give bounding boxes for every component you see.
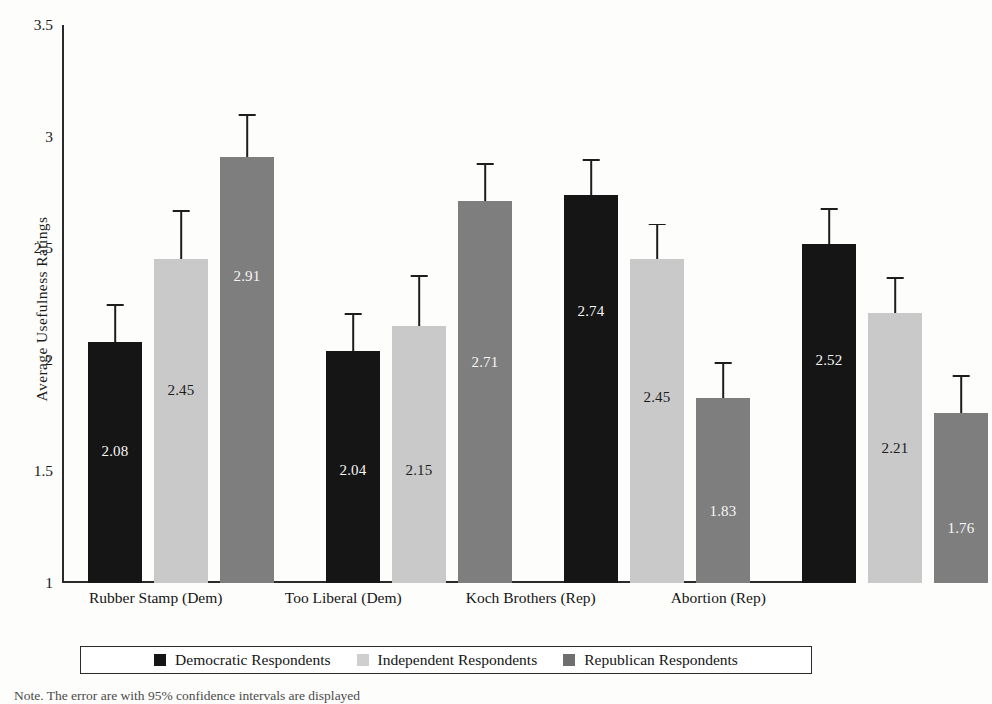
y-tick-1-5: 1.5 <box>34 462 53 480</box>
bar-value-label: 1.83 <box>696 503 750 520</box>
bar-column[interactable]: 2.45 <box>154 25 208 583</box>
y-axis-title: Average Usefulness Ratings <box>33 179 51 439</box>
x-axis-label: Koch Brothers (Rep) <box>437 589 625 607</box>
bar-group: 2.742.451.83 <box>538 25 776 583</box>
bar-value-label: 2.08 <box>88 443 142 460</box>
legend-label: Republican Respondents <box>584 651 738 669</box>
bar-value-label: 1.76 <box>934 520 988 537</box>
bar-column[interactable]: 2.71 <box>458 25 512 583</box>
figure-note: Note. The error are with 95% confidence … <box>14 688 714 704</box>
bar-group: 2.522.211.76 <box>776 25 992 583</box>
bar-group: 2.082.452.91 <box>62 25 300 583</box>
bar-column[interactable]: 1.76 <box>934 25 988 583</box>
bar[interactable]: 1.76 <box>934 413 988 583</box>
x-axis-label: Rubber Stamp (Dem) <box>62 589 250 607</box>
plot-area: 3.532.521.51 2.082.452.912.042.152.712.7… <box>62 25 812 583</box>
bar-column[interactable]: 2.52 <box>802 25 856 583</box>
bar-value-label: 2.04 <box>326 462 380 479</box>
bar[interactable]: 2.91 <box>220 157 274 583</box>
bar-value-label: 2.15 <box>392 462 446 479</box>
bar[interactable]: 2.15 <box>392 326 446 583</box>
y-tick-2-5: 2.5 <box>34 239 53 257</box>
bar-value-label: 2.45 <box>154 382 208 399</box>
bar-column[interactable]: 2.21 <box>868 25 922 583</box>
legend-label: Independent Respondents <box>378 651 538 669</box>
legend-label: Democratic Respondents <box>175 651 330 669</box>
bar[interactable]: 2.74 <box>564 195 618 583</box>
bar-column[interactable]: 2.91 <box>220 25 274 583</box>
x-axis-label: Abortion (Rep) <box>625 589 813 607</box>
bar-value-label: 2.45 <box>630 389 684 406</box>
y-tick-3-5: 3.5 <box>34 16 53 34</box>
bar-column[interactable]: 2.04 <box>326 25 380 583</box>
legend-swatch-icon <box>154 654 166 666</box>
bar[interactable]: 2.71 <box>458 201 512 583</box>
x-axis-label: Too Liberal (Dem) <box>250 589 438 607</box>
bar[interactable]: 2.45 <box>154 259 208 583</box>
bar-value-label: 2.91 <box>220 268 274 285</box>
bar[interactable]: 1.83 <box>696 398 750 583</box>
bar-group: 2.042.152.71 <box>300 25 538 583</box>
chart-legend: Democratic RespondentsIndependent Respon… <box>80 646 812 674</box>
x-axis-labels: Rubber Stamp (Dem)Too Liberal (Dem)Koch … <box>62 589 812 607</box>
legend-item[interactable]: Independent Respondents <box>357 651 538 669</box>
bar-value-label: 2.74 <box>564 303 618 320</box>
legend-swatch-icon <box>357 654 369 666</box>
bar[interactable]: 2.08 <box>88 342 142 583</box>
bar-column[interactable]: 2.45 <box>630 25 684 583</box>
bar-column[interactable]: 2.15 <box>392 25 446 583</box>
bar-column[interactable]: 2.08 <box>88 25 142 583</box>
legend-swatch-icon <box>563 654 575 666</box>
legend-item[interactable]: Democratic Respondents <box>154 651 330 669</box>
y-tick-1: 1 <box>45 574 53 592</box>
bar-column[interactable]: 2.74 <box>564 25 618 583</box>
bar-column[interactable]: 1.83 <box>696 25 750 583</box>
y-tick-2: 2 <box>45 350 53 368</box>
bar-value-label: 2.52 <box>802 352 856 369</box>
legend-item[interactable]: Republican Respondents <box>563 651 738 669</box>
bar[interactable]: 2.04 <box>326 351 380 583</box>
bar[interactable]: 2.45 <box>630 259 684 583</box>
y-tick-3: 3 <box>45 127 53 145</box>
bar-value-label: 2.71 <box>458 354 512 371</box>
bar-value-label: 2.21 <box>868 440 922 457</box>
bar-groups: 2.082.452.912.042.152.712.742.451.832.52… <box>62 25 812 583</box>
bar[interactable]: 2.21 <box>868 313 922 583</box>
bar[interactable]: 2.52 <box>802 244 856 583</box>
